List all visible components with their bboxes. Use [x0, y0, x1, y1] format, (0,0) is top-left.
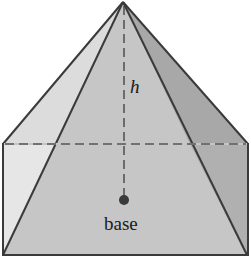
- base-label: base: [104, 213, 138, 234]
- pyramid-svg: h base: [0, 0, 251, 275]
- pyramid-diagram: h base: [0, 0, 251, 275]
- height-label: h: [130, 76, 140, 97]
- base-center-point: [119, 195, 129, 205]
